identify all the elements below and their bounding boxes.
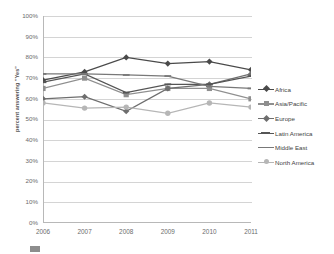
data-point-marker <box>164 75 171 77</box>
legend-item-label: Latin America <box>275 130 313 137</box>
x-axis-tick-2009: 2009 <box>153 228 183 235</box>
chart-legend: AfricaAsia/PacificEuropeLatin AmericaMid… <box>258 82 334 170</box>
y-axis-tick-80%: 80% <box>14 54 38 60</box>
legend-marker-icon <box>258 113 274 123</box>
y-axis-tick-100%: 100% <box>14 13 38 19</box>
y-axis-tick-90%: 90% <box>14 34 38 40</box>
data-point-marker <box>206 83 213 85</box>
x-axis-tick-2011: 2011 <box>236 228 266 235</box>
legend-item-latin-america[interactable]: Latin America <box>258 126 334 141</box>
series-line-africa <box>43 57 251 80</box>
data-point-marker <box>164 83 171 85</box>
data-point-marker <box>43 86 46 91</box>
y-axis-tick-70%: 70% <box>14 75 38 81</box>
data-point-marker <box>206 58 212 64</box>
legend-item-europe[interactable]: Europe <box>258 111 334 126</box>
legend-marker-icon <box>258 84 274 94</box>
series-line-europe <box>43 74 251 111</box>
y-axis-tick-30%: 30% <box>14 158 38 164</box>
y-axis-tick-20%: 20% <box>14 178 38 184</box>
y-axis-tick-labels: 0%10%20%30%40%50%60%70%80%90%100% <box>14 0 38 254</box>
bottom-caption-strip <box>0 244 334 254</box>
data-point-marker <box>82 76 87 81</box>
data-point-marker <box>123 92 130 94</box>
data-point-marker <box>82 94 88 100</box>
data-point-marker <box>206 85 213 87</box>
data-point-marker <box>43 73 46 75</box>
x-axis-tick-2008: 2008 <box>111 228 141 235</box>
data-point-marker <box>81 73 88 75</box>
data-point-marker <box>43 100 46 105</box>
data-point-marker <box>207 100 212 105</box>
legend-item-asia-pacific[interactable]: Asia/Pacific <box>258 97 334 112</box>
series-line-north-america <box>43 103 251 113</box>
legend-marker-icon <box>258 128 274 138</box>
y-axis-tick-0%: 0% <box>14 220 38 226</box>
legend-item-africa[interactable]: Africa <box>258 82 334 97</box>
x-axis-tick-2006: 2006 <box>28 228 58 235</box>
legend-item-north-america[interactable]: North America <box>258 155 334 170</box>
data-point-marker <box>248 75 251 77</box>
legend-item-label: North America <box>275 159 314 166</box>
y-axis-tick-60%: 60% <box>14 96 38 102</box>
legend-item-label: Middle East <box>275 144 307 151</box>
legend-marker-icon <box>258 99 274 109</box>
legend-item-label: Europe <box>275 115 295 122</box>
y-axis-tick-50%: 50% <box>14 116 38 122</box>
legend-marker-icon <box>258 157 274 167</box>
legend-item-middle-east[interactable]: Middle East <box>258 140 334 155</box>
series-line-latin-america <box>43 74 251 93</box>
legend-item-label: Asia/Pacific <box>275 100 307 107</box>
data-point-marker <box>124 104 129 109</box>
line-chart: percent answering "Yes" 0%10%20%30%40%50… <box>0 0 334 254</box>
data-point-marker <box>82 105 87 110</box>
bottom-caption-swatch <box>30 246 40 252</box>
data-point-marker <box>248 96 251 101</box>
data-point-marker <box>123 74 130 76</box>
data-point-marker <box>165 61 171 67</box>
data-point-marker <box>248 104 251 109</box>
legend-item-label: Africa <box>275 86 291 93</box>
series-lines-layer <box>43 16 251 223</box>
data-point-marker <box>165 111 170 116</box>
x-axis-tick-2007: 2007 <box>70 228 100 235</box>
data-point-marker <box>43 81 46 83</box>
y-axis-tick-40%: 40% <box>14 137 38 143</box>
data-point-marker <box>123 54 129 60</box>
data-point-marker <box>248 88 251 90</box>
x-axis-tick-2010: 2010 <box>194 228 224 235</box>
y-axis-tick-10%: 10% <box>14 199 38 205</box>
legend-marker-icon <box>258 143 274 153</box>
